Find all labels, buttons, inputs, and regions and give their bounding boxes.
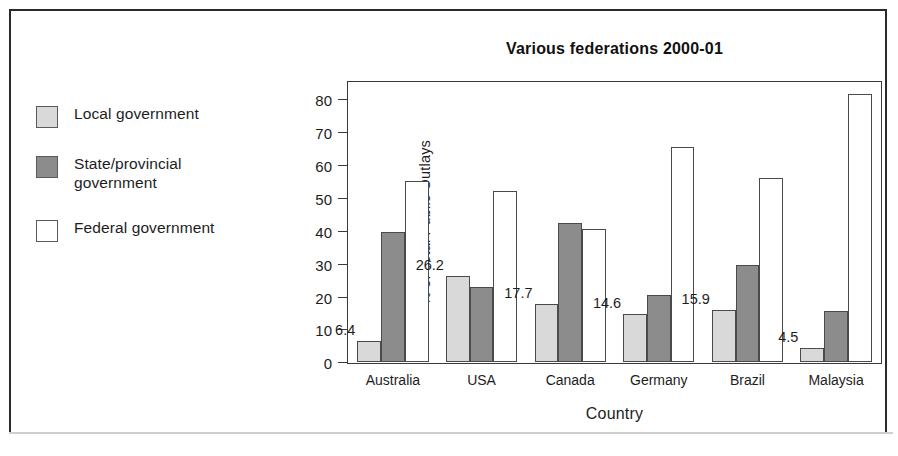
x-tick-label: Australia [366,372,420,388]
x-tick-label: Canada [546,372,595,388]
y-tick: 60 [338,165,347,166]
legend-item-state: State/provincial government [36,154,246,192]
bar-state [558,223,582,363]
bar-state [381,232,405,362]
bar-group: 26.2 [437,83,526,363]
legend-item-local: Local government [36,104,246,128]
chart-legend: Local government State/provincial govern… [36,104,246,268]
bar-value-label: 15.9 [682,291,710,307]
y-tick: 0 [338,362,347,363]
chart-page: Local government State/provincial govern… [0,0,898,456]
bar-value-label: 6.4 [335,322,355,338]
y-tick: 80 [338,99,347,100]
bar-federal [493,191,517,362]
page-border-bottom [9,432,893,434]
bars-area: 6.426.217.714.615.94.5 [349,83,881,363]
legend-label-state: State/provincial government [74,154,246,192]
y-tick-label: 30 [315,256,332,273]
bar-state [647,295,671,362]
y-tick: 20 [338,297,347,298]
bar-value-label: 17.7 [504,285,532,301]
bar-value-label: 4.5 [778,329,798,345]
bar-group: 17.7 [526,83,615,363]
bar-local [800,348,824,363]
y-tick: 50 [338,198,347,199]
bar-state [736,265,760,362]
bar-value-label: 26.2 [416,257,444,273]
legend-swatch-federal-icon [36,220,58,242]
bar-group: 15.9 [703,83,792,363]
bar-local [357,341,381,362]
bar-value-label: 14.6 [593,295,621,311]
bar-state [470,287,494,363]
plot-area: % of Total Public Outlays 01020304050607… [347,81,882,364]
legend-label-federal: Federal government [74,218,215,237]
bar-local [446,276,470,362]
bar-group: 14.6 [614,83,703,363]
x-tick-label: Malaysia [808,372,863,388]
bar-federal [671,147,695,363]
bar-federal [848,94,872,362]
y-tick: 70 [338,132,347,133]
x-axis-label: Country [347,405,882,423]
legend-swatch-state-icon [36,156,58,178]
x-tick-label: Germany [630,372,688,388]
chart-title: Various federations 2000-01 [347,40,882,58]
y-tick-label: 10 [315,322,332,339]
bar-local [623,314,647,362]
y-tick-label: 20 [315,289,332,306]
x-tick-label: USA [467,372,496,388]
y-tick-label: 70 [315,124,332,141]
x-tick-label: Brazil [730,372,765,388]
y-tick-label: 50 [315,190,332,207]
legend-swatch-local-icon [36,106,58,128]
y-tick: 40 [338,231,347,232]
legend-label-local: Local government [74,104,199,123]
y-tick: 30 [338,264,347,265]
legend-item-federal: Federal government [36,218,246,242]
y-tick-label: 80 [315,92,332,109]
bar-group: 4.5 [792,83,881,363]
y-tick-label: 0 [324,355,332,372]
bar-group: 6.4 [349,83,438,363]
bar-local [712,310,736,362]
y-tick-label: 60 [315,157,332,174]
bar-local [535,304,559,362]
y-tick-label: 40 [315,223,332,240]
bar-state [824,311,848,362]
